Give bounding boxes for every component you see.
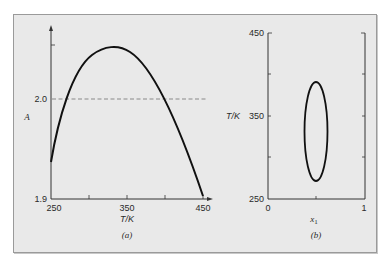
x-tick-label-350: 350 [119,203,134,213]
x-tick-label-0: 0 [265,203,270,213]
panel-a-y-arrow-icon [49,25,53,31]
x-axis-label-b: x1 [309,214,318,226]
panel-caption-a: (a) [122,230,133,240]
y-tick-label-2-0: 2.0 [34,94,47,104]
curve-a-vs-t [51,47,203,196]
y-tick-label-250: 250 [249,194,264,204]
x-tick-label-450: 450 [195,203,210,213]
panel-a: 2.0 1.9 A 250 350 450 T/K (a) [23,25,213,240]
figure-canvas: 2.0 1.9 A 250 350 450 T/K (a) 450 350 25… [0,0,391,265]
x-tick-label-250: 250 [46,203,61,213]
coexistence-ellipse [305,82,328,181]
y-tick-label-350: 350 [249,111,264,121]
y-tick-label-450: 450 [249,28,264,38]
y-axis-label-a: A [23,112,30,122]
x-tick-label-1: 1 [361,203,366,213]
x-axis-label-a: T/K [120,214,135,224]
y-tick-label-1-9: 1.9 [34,194,47,204]
panel-a-x-arrow-icon [207,197,213,201]
panel-b: 450 350 250 T/K 0 1 x1 (b) [226,28,367,240]
panel-caption-b: (b) [311,230,322,240]
y-axis-label-b: T/K [226,111,241,121]
